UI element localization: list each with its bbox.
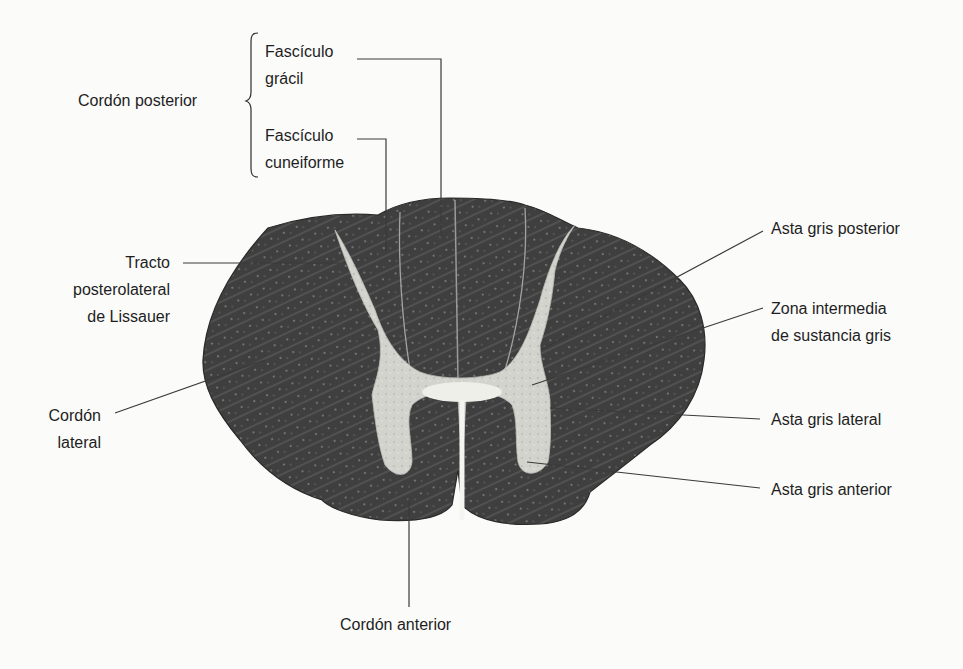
- label-text: Fascículo: [265, 122, 344, 149]
- label-text: Asta gris lateral: [771, 406, 881, 433]
- label-tracto-lissauer: Tracto posterolateral de Lissauer: [40, 249, 170, 330]
- label-text: Cordón: [20, 402, 101, 429]
- label-fasciculo-cuneiforme: Fascículo cuneiforme: [265, 122, 344, 176]
- label-text: Cordón anterior: [340, 611, 451, 638]
- label-text: cuneiforme: [265, 149, 344, 176]
- label-asta-gris-posterior: Asta gris posterior: [771, 215, 900, 242]
- label-text: Cordón posterior: [78, 87, 197, 114]
- label-cordon-anterior: Cordón anterior: [340, 611, 451, 638]
- label-text: posterolateral: [40, 276, 170, 303]
- label-text: Zona intermedia: [771, 295, 891, 322]
- label-text: de Lissauer: [40, 303, 170, 330]
- label-text: Asta gris anterior: [771, 476, 892, 503]
- label-asta-gris-anterior: Asta gris anterior: [771, 476, 892, 503]
- label-cordon-posterior: Cordón posterior: [78, 87, 197, 114]
- label-text: lateral: [20, 429, 101, 456]
- white-matter: [203, 198, 705, 524]
- label-zona-intermedia: Zona intermedia de sustancia gris: [771, 295, 891, 349]
- spinal-cord-figure: Cordón posterior Fascículo grácil Fascíc…: [0, 0, 963, 669]
- brace-cordon-posterior: [246, 33, 258, 177]
- label-text: Tracto: [40, 249, 170, 276]
- label-asta-gris-lateral: Asta gris lateral: [771, 406, 881, 433]
- label-fasciculo-gracil: Fascículo grácil: [265, 38, 333, 92]
- label-text: Fascículo: [265, 38, 333, 65]
- label-text: de sustancia gris: [771, 322, 891, 349]
- label-cordon-lateral: Cordón lateral: [20, 402, 101, 456]
- label-text: Asta gris posterior: [771, 215, 900, 242]
- label-text: grácil: [265, 65, 333, 92]
- central-canal-region: [422, 382, 502, 402]
